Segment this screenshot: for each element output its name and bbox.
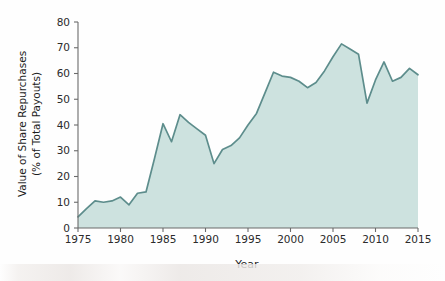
- figure-container: 01020304050607080 1975198019851990199520…: [0, 0, 445, 281]
- y-tick-label: 10: [57, 196, 70, 208]
- x-axis-title: Year: [234, 258, 259, 271]
- y-axis-title-line-2: (% of Total Payouts): [30, 72, 42, 176]
- y-tick-label: 30: [57, 144, 70, 156]
- x-tick-label: 2015: [405, 233, 432, 245]
- x-axis-ticks: 197519801985199019952000200520102015: [65, 228, 432, 245]
- y-tick-label: 60: [57, 67, 70, 79]
- y-axis-title-line-1: Value of Share Repurchases: [16, 51, 28, 197]
- x-tick-label: 1985: [150, 233, 177, 245]
- x-tick-label: 2010: [362, 233, 389, 245]
- area-chart: 01020304050607080 1975198019851990199520…: [0, 0, 445, 281]
- x-tick-label: 2000: [277, 233, 304, 245]
- area-fill-share-repurchases: [78, 44, 418, 228]
- y-tick-label: 0: [63, 222, 70, 234]
- x-tick-label: 2005: [320, 233, 347, 245]
- plot-area: [78, 44, 418, 228]
- y-tick-label: 50: [57, 93, 70, 105]
- y-axis-ticks: 01020304050607080: [57, 16, 78, 234]
- y-tick-label: 80: [57, 16, 70, 28]
- x-tick-label: 1980: [107, 233, 134, 245]
- x-tick-label: 1990: [192, 233, 219, 245]
- y-tick-label: 40: [57, 119, 70, 131]
- y-tick-label: 20: [57, 170, 70, 182]
- x-tick-label: 1975: [65, 233, 92, 245]
- y-tick-label: 70: [57, 41, 70, 53]
- x-tick-label: 1995: [235, 233, 262, 245]
